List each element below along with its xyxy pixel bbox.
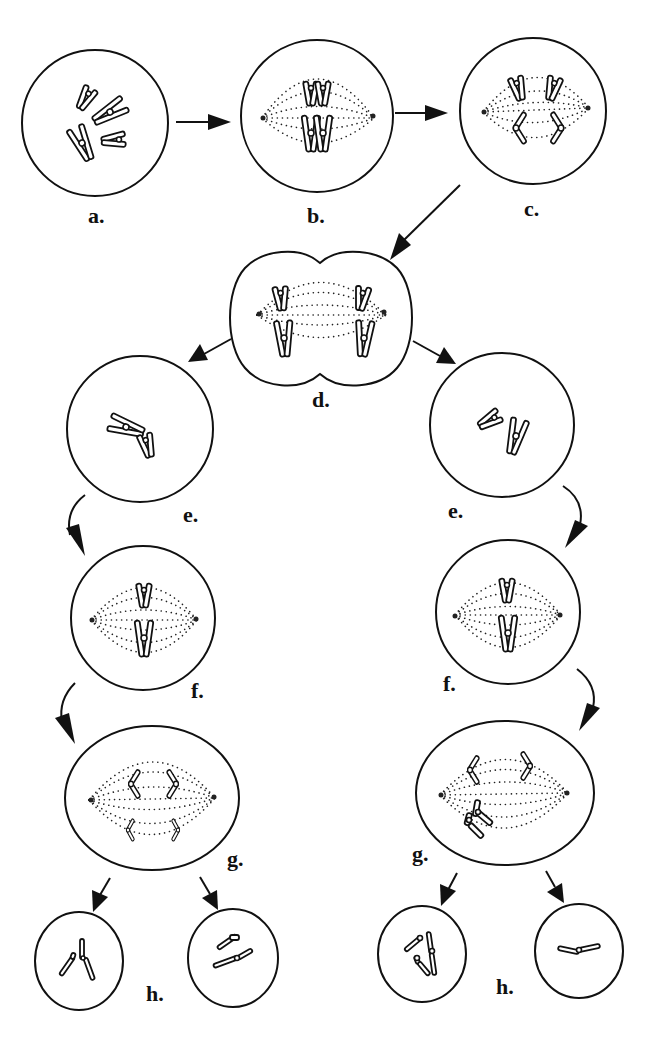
arrow-icon [55, 683, 75, 744]
arrow-icon [413, 341, 456, 364]
stage-d-cell [230, 252, 412, 386]
centrosome-icon [558, 613, 563, 618]
centrosome-icon [212, 795, 217, 800]
stage-c-cell [460, 38, 606, 184]
stage-g-left-cell [65, 726, 239, 870]
arrow-icon [395, 105, 448, 121]
stage-e-right-cell [430, 353, 574, 497]
arrow-icon [92, 878, 110, 912]
stage-label-a: a. [88, 205, 105, 227]
stage-label-e-left: e. [183, 504, 198, 526]
stage-label-e-right: e. [448, 500, 463, 522]
centrosome-icon [194, 617, 199, 622]
stage-b-cell [241, 40, 393, 192]
centrosome-icon [482, 110, 487, 115]
stage-f-left-cell [71, 546, 215, 690]
centrosome-icon [382, 310, 387, 315]
centrosome-icon [371, 114, 376, 119]
stage-e-left-cell [67, 356, 213, 502]
stage-h-gamete-2 [188, 909, 278, 1007]
arrow-icon [200, 877, 218, 910]
stage-h-gamete-3 [378, 906, 466, 1002]
stage-label-f-left: f. [191, 680, 204, 702]
centrosome-icon [453, 614, 458, 619]
centrosome-icon [90, 618, 95, 623]
centrosome-icon [261, 116, 266, 121]
arrow-icon [188, 339, 231, 362]
stage-label-b: b. [307, 205, 325, 227]
arrow-icon [546, 871, 564, 903]
stage-h-gamete-4 [535, 904, 623, 998]
centrosome-icon [257, 312, 262, 317]
stage-label-c: c. [524, 198, 539, 220]
arrow-icon [440, 873, 457, 906]
meiosis-diagram [0, 0, 652, 1040]
arrow-icon [66, 495, 85, 556]
centrosome-icon [439, 793, 444, 798]
stage-label-h-left: h. [146, 983, 164, 1005]
stage-a-cell [22, 50, 168, 196]
arrow-icon [390, 185, 460, 260]
stage-label-h-right: h. [496, 976, 514, 998]
arrow-icon [577, 669, 600, 731]
centrosome-icon [565, 791, 570, 796]
stage-g-right-cell [416, 721, 594, 865]
centrosome-icon [89, 798, 94, 803]
stage-h-gamete-1 [35, 912, 123, 1010]
arrow-icon [176, 114, 231, 130]
stage-f-right-cell [436, 540, 580, 684]
stage-label-g-right: g. [412, 843, 429, 865]
stage-label-f-right: f. [443, 673, 456, 695]
arrow-icon [563, 486, 588, 548]
stage-label-g-left: g. [227, 848, 244, 870]
centrosome-icon [586, 106, 591, 111]
stage-label-d: d. [312, 389, 330, 411]
